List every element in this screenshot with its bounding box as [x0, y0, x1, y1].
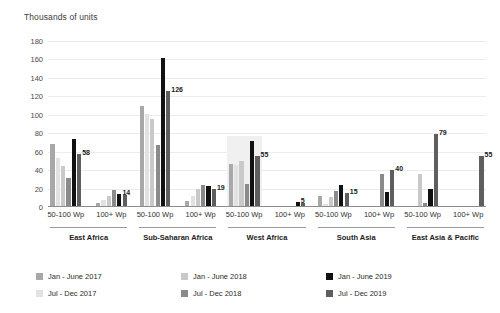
x-axis-tick-label: 100+ Wp	[96, 210, 126, 219]
legend-label: Jan - June 2019	[338, 272, 392, 281]
region-rule	[407, 227, 484, 228]
plot-area: 020406080100120140160180 581412619555154…	[48, 41, 486, 207]
bar	[245, 184, 249, 207]
region-label: Sub-Saharan Africa	[143, 233, 212, 242]
legend-swatch-icon	[36, 290, 43, 297]
region-label: East Africa	[69, 233, 108, 242]
region-rule	[228, 227, 305, 228]
legend-item[interactable]: Jul - Dec 2018	[181, 285, 247, 302]
region-rule	[139, 227, 216, 228]
legend-item[interactable]: Jan - June 2018	[181, 268, 247, 285]
bar	[77, 154, 81, 207]
legend-item[interactable]: Jan - June 2017	[36, 268, 102, 285]
bar	[66, 178, 70, 207]
y-axis-tick-label: 160	[30, 55, 43, 64]
bar-value-label: 55	[261, 151, 269, 158]
bar	[428, 189, 432, 207]
y-axis-tick-label: 180	[30, 37, 43, 46]
region-rule	[50, 227, 127, 228]
bar	[206, 186, 210, 207]
bar	[239, 161, 243, 207]
region-label: West Africa	[247, 233, 288, 242]
bar-group-east-asia-pacific: 7955	[405, 41, 486, 207]
x-axis-tick-label: 50-100 Wp	[404, 210, 441, 219]
bar-subgroup: 55	[226, 41, 262, 207]
legend-swatch-icon	[181, 273, 188, 280]
x-axis-line	[48, 206, 486, 207]
bar	[339, 185, 343, 207]
chart-axis-title: Thousands of units	[24, 12, 98, 22]
bar-subgroup: 79	[405, 41, 441, 207]
bar-subgroup: 58	[48, 41, 84, 207]
bar	[345, 193, 349, 207]
bar-value-label: 126	[171, 86, 183, 93]
legend-label: Jul - Dec 2019	[338, 289, 386, 298]
y-axis-tick-label: 120	[30, 92, 43, 101]
y-axis-tick-label: 140	[30, 73, 43, 82]
legend-label: Jan - June 2017	[48, 272, 102, 281]
bar	[201, 185, 205, 207]
x-axis-tick-label: 50-100 Wp	[137, 210, 174, 219]
bar-value-label: 55	[485, 151, 493, 158]
legend-column: Jan - June 2018Jul - Dec 2018	[181, 268, 247, 302]
bar-value-label: 79	[439, 129, 447, 136]
bar	[418, 174, 422, 207]
bar	[156, 145, 160, 207]
bar	[56, 158, 60, 207]
bar	[212, 189, 216, 207]
x-axis-tick-label: 50-100 Wp	[315, 210, 352, 219]
bar-value-label: 15	[350, 188, 358, 195]
bar	[196, 189, 200, 207]
bar	[145, 114, 149, 207]
x-axis-tick-label: 100+ Wp	[275, 210, 305, 219]
bar-subgroup: 15	[316, 41, 352, 207]
bar-subgroup: 55	[450, 41, 486, 207]
x-axis-tick-label: 50-100 Wp	[226, 210, 263, 219]
region-label: East Asia & Pacific	[412, 233, 479, 242]
bar	[161, 58, 165, 207]
bar	[166, 91, 170, 207]
bar-group-south-asia: 1540	[316, 41, 397, 207]
y-axis-tick-label: 20	[35, 184, 43, 193]
bar	[150, 119, 154, 207]
y-axis-tick-label: 0	[39, 203, 43, 212]
bar	[72, 139, 76, 207]
bar-group-sub-saharan-africa: 12619	[137, 41, 218, 207]
legend-swatch-icon	[326, 273, 333, 280]
bar	[255, 156, 259, 207]
bar-group-west-africa: 555	[226, 41, 307, 207]
legend-swatch-icon	[181, 290, 188, 297]
legend-column: Jan - June 2017Jul - Dec 2017	[36, 268, 102, 302]
bar-value-label: 58	[82, 149, 90, 156]
bar-value-label: 19	[217, 184, 225, 191]
legend-item[interactable]: Jul - Dec 2017	[36, 285, 102, 302]
y-axis-tick-label: 40	[35, 166, 43, 175]
bar	[334, 191, 338, 207]
bar	[140, 106, 144, 207]
bar-subgroup: 5	[272, 41, 308, 207]
y-axis-tick-label: 60	[35, 147, 43, 156]
legend-item[interactable]: Jul - Dec 2019	[326, 285, 392, 302]
chart-root: Thousands of units 020406080100120140160…	[0, 0, 500, 313]
legend-label: Jul - Dec 2018	[193, 289, 241, 298]
x-axis-labels: 50-100 Wp100+ WpEast Africa50-100 Wp100+…	[48, 210, 486, 280]
bar-subgroup: 14	[94, 41, 130, 207]
bar-group-east-africa: 5814	[48, 41, 129, 207]
bar-groups: 58141261955515407955	[48, 41, 486, 207]
legend-label: Jan - June 2018	[193, 272, 247, 281]
x-axis-tick-label: 100+ Wp	[185, 210, 215, 219]
bar	[50, 144, 54, 207]
y-axis-tick-label: 80	[35, 129, 43, 138]
bar	[385, 192, 389, 207]
x-axis-tick-label: 100+ Wp	[453, 210, 483, 219]
bar-value-label: 40	[395, 165, 403, 172]
bar-subgroup: 126	[137, 41, 173, 207]
x-axis-tick-label: 50-100 Wp	[47, 210, 84, 219]
x-axis-tick-label: 100+ Wp	[364, 210, 394, 219]
legend-item[interactable]: Jan - June 2019	[326, 268, 392, 285]
legend-swatch-icon	[36, 273, 43, 280]
bar-subgroup: 40	[361, 41, 397, 207]
y-axis-tick-label: 100	[30, 110, 43, 119]
legend-swatch-icon	[326, 290, 333, 297]
region-rule	[318, 227, 395, 228]
